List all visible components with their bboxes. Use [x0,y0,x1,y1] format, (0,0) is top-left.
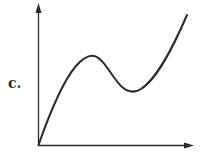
x-axis-arrow-icon [184,143,194,149]
graph [0,0,204,164]
y-axis [36,3,42,145]
y-axis-arrow-icon [36,3,42,13]
x-axis [38,143,194,149]
curve [39,15,188,145]
